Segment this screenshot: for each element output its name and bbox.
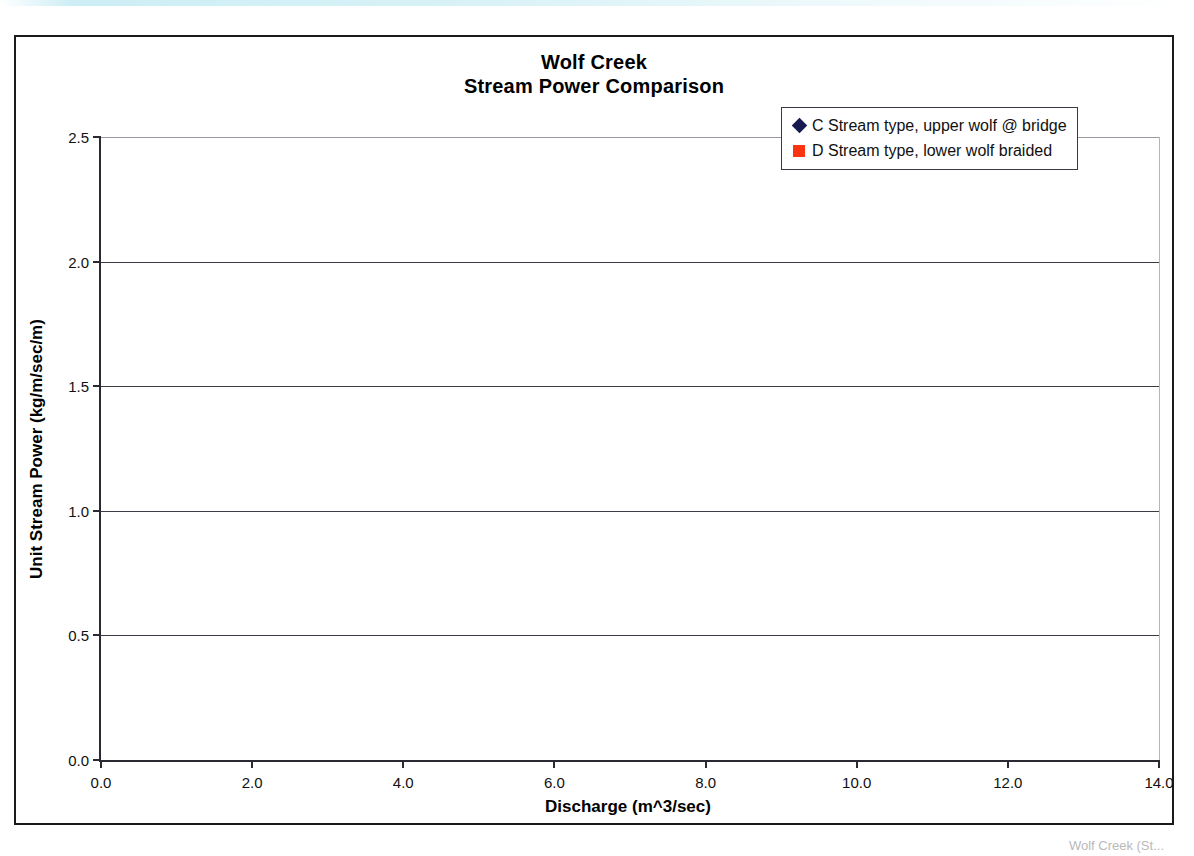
y-axis-tick	[93, 261, 101, 263]
x-axis-tick-label: 10.0	[842, 774, 871, 791]
scan-edge-strip	[0, 0, 1194, 6]
x-axis-tick-label: 0.0	[91, 774, 112, 791]
square-marker-icon	[790, 145, 808, 157]
y-axis-tick	[93, 385, 101, 387]
y-axis-tick	[93, 510, 101, 512]
legend-label-d-stream-type: D Stream type, lower wolf braided	[812, 142, 1052, 160]
y-axis-tick-label: 0.5	[68, 627, 89, 644]
x-axis-tick	[251, 760, 253, 768]
x-axis-tick	[553, 760, 555, 768]
x-axis-tick-label: 4.0	[393, 774, 414, 791]
y-axis-title: Unit Stream Power (kg/m/sec/m)	[24, 137, 50, 760]
chart-title: Wolf Creek Stream Power Comparison	[16, 51, 1172, 98]
x-axis-tick-label: 6.0	[544, 774, 565, 791]
x-axis-tick-label: 12.0	[993, 774, 1022, 791]
plot-right-border	[1159, 137, 1160, 760]
y-gridline	[101, 511, 1159, 512]
legend-item-c-stream-type[interactable]: C Stream type, upper wolf @ bridge	[790, 113, 1067, 138]
chart-title-line-2: Stream Power Comparison	[16, 75, 1172, 98]
y-axis-title-text: Unit Stream Power (kg/m/sec/m)	[27, 319, 47, 579]
page-caption-fragment: Wolf Creek (St...	[14, 838, 1174, 856]
x-axis-tick-label: 14.0	[1144, 774, 1173, 791]
x-axis-tick	[1007, 760, 1009, 768]
y-axis-tick-label: 2.5	[68, 129, 89, 146]
chart-title-line-1: Wolf Creek	[541, 51, 647, 73]
y-axis-tick-label: 0.0	[68, 752, 89, 769]
diamond-marker-icon	[790, 120, 808, 131]
plot-canvas: 0.00.51.01.52.02.50.02.04.06.08.010.012.…	[101, 137, 1159, 760]
legend-label-c-stream-type: C Stream type, upper wolf @ bridge	[812, 117, 1067, 135]
x-axis-tick	[705, 760, 707, 768]
x-axis-tick-label: 8.0	[695, 774, 716, 791]
x-axis-tick-label: 2.0	[242, 774, 263, 791]
y-axis-tick	[93, 136, 101, 138]
x-axis-title: Discharge (m^3/sec)	[99, 797, 1157, 817]
plot-area: 0.00.51.01.52.02.50.02.04.06.08.010.012.…	[99, 137, 1159, 762]
chart-legend: C Stream type, upper wolf @ bridge D Str…	[781, 107, 1078, 170]
y-axis-tick-label: 1.0	[68, 502, 89, 519]
y-axis-tick	[93, 634, 101, 636]
y-axis-tick-label: 1.5	[68, 378, 89, 395]
x-axis-tick	[402, 760, 404, 768]
y-gridline	[101, 262, 1159, 263]
y-gridline	[101, 386, 1159, 387]
x-axis-tick	[100, 760, 102, 768]
y-axis-tick-label: 2.0	[68, 253, 89, 270]
legend-item-d-stream-type[interactable]: D Stream type, lower wolf braided	[790, 138, 1067, 163]
y-gridline	[101, 635, 1159, 636]
chart-page-frame: Wolf Creek Stream Power Comparison C Str…	[14, 35, 1174, 825]
x-axis-tick	[1158, 760, 1160, 768]
x-axis-tick	[856, 760, 858, 768]
